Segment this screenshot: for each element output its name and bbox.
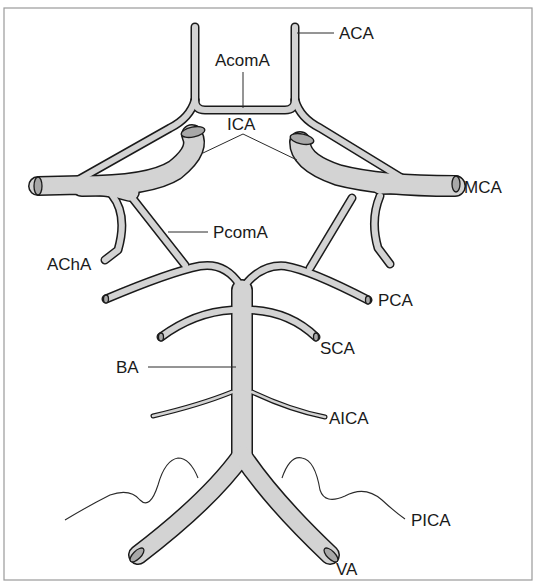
label-aica: AICA (329, 409, 369, 428)
label-acha: AChA (47, 255, 92, 274)
circle-of-willis-diagram: ACA AcomA ICA MCA PcomA AChA PCA SCA BA … (0, 0, 539, 585)
label-ica: ICA (227, 115, 256, 134)
left-pca-cut-end (104, 295, 109, 303)
label-pica: PICA (411, 511, 451, 530)
left-sca-cut-end (159, 333, 164, 341)
label-ba: BA (116, 358, 139, 377)
left-mca-cut-end (34, 177, 42, 195)
label-pca: PCA (378, 291, 414, 310)
right-mca-cut-end (452, 176, 460, 192)
label-pcoma: PcomA (213, 223, 268, 242)
right-pca-cut-end (366, 296, 371, 304)
label-aca: ACA (339, 24, 375, 43)
label-acoma: AcomA (215, 51, 270, 70)
label-va: VA (336, 560, 358, 579)
label-mca: MCA (464, 178, 502, 197)
right-sca-cut-end (314, 333, 319, 341)
label-sca: SCA (320, 339, 356, 358)
